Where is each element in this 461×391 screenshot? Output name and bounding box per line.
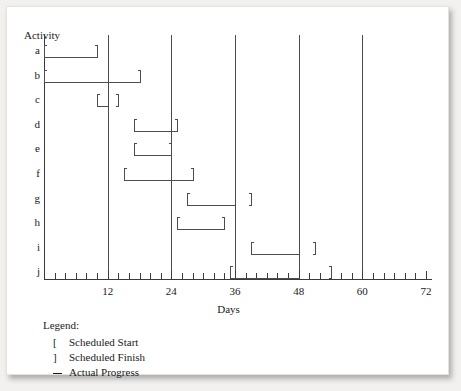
scheduled-finish-bracket-h (224, 217, 225, 229)
scheduled-start-cap-top-b (44, 70, 47, 71)
scheduled-start-cap-top-c (97, 94, 100, 95)
x-tick-68 (405, 273, 406, 279)
scheduled-start-bracket-d (134, 119, 135, 131)
scheduled-start-bracket-c (97, 94, 98, 106)
actual-progress-line-d (134, 131, 176, 132)
y-axis-title: Activity (24, 29, 60, 41)
gridline-day-36 (235, 35, 236, 279)
scheduled-start-cap-top-h (177, 217, 180, 218)
scheduled-finish-cap-bottom-g (249, 205, 252, 206)
x-tick-14 (118, 273, 119, 279)
x-tick-18 (140, 273, 141, 279)
scheduled-finish-cap-top-b (138, 70, 141, 71)
x-tick-28 (193, 273, 194, 279)
scheduled-finish-cap-top-i (313, 242, 316, 243)
activity-row-label-g: g (26, 192, 40, 204)
activity-row-label-b: b (26, 69, 40, 81)
scanned-page-card: Activity Days 122436486072abcdefghij Leg… (6, 6, 449, 375)
x-tick-label-12: 12 (93, 285, 123, 297)
scheduled-start-cap-top-f (124, 168, 127, 169)
legend-symbol-1-icon: ] (53, 351, 69, 363)
scheduled-start-bracket-j (230, 266, 231, 278)
x-tick-8 (86, 273, 87, 279)
actual-progress-line-f (124, 180, 193, 181)
x-tick-2 (55, 273, 56, 279)
scheduled-finish-cap-top-h (222, 217, 225, 218)
activity-row-label-h: h (26, 216, 40, 228)
x-tick-30 (203, 273, 204, 279)
scheduled-finish-cap-bottom-c (116, 106, 119, 107)
x-tick-70 (415, 273, 416, 279)
gridline-day-24 (171, 35, 172, 279)
scheduled-finish-bracket-g (251, 193, 252, 205)
x-tick-50 (309, 273, 310, 279)
scheduled-start-cap-top-i (251, 242, 254, 243)
x-tick-22 (161, 273, 162, 279)
x-tick-4 (65, 273, 66, 279)
scheduled-start-cap-top-e (134, 143, 137, 144)
gridline-day-12 (108, 35, 109, 279)
scheduled-finish-cap-top-g (249, 193, 252, 194)
legend-label-1: Scheduled Finish (69, 351, 145, 363)
legend-entry-2: Actual Progress (53, 366, 323, 379)
x-tick-52 (320, 273, 321, 279)
x-tick-66 (394, 273, 395, 279)
x-tick-24 (171, 271, 172, 279)
scheduled-start-cap-top-j (230, 266, 233, 267)
scheduled-finish-bracket-c (118, 94, 119, 106)
x-tick-72 (426, 271, 427, 279)
x-tick-label-36: 36 (220, 285, 250, 297)
activity-row-label-d: d (26, 118, 40, 130)
scheduled-start-bracket-i (251, 242, 252, 254)
x-tick-48 (299, 271, 300, 279)
scheduled-finish-cap-top-f (191, 168, 194, 169)
scheduled-finish-cap-top-d (175, 119, 178, 120)
x-tick-6 (76, 273, 77, 279)
scheduled-finish-cap-top-a (95, 45, 98, 46)
scheduled-start-bracket-b (44, 70, 45, 82)
actual-progress-line-b (44, 82, 140, 83)
scheduled-finish-cap-bottom-i (313, 254, 316, 255)
scheduled-start-bracket-e (134, 143, 135, 155)
legend-symbol-0-icon: [ (53, 336, 69, 348)
activity-row-label-f: f (26, 167, 40, 179)
x-tick-58 (352, 273, 353, 279)
legend-label-2: Actual Progress (69, 366, 139, 378)
x-tick-64 (384, 273, 385, 279)
scheduled-finish-bracket-b (140, 70, 141, 82)
x-tick-56 (341, 273, 342, 279)
actual-progress-line-i (251, 254, 299, 255)
actual-progress-line-j (230, 278, 299, 279)
x-tick-62 (373, 273, 374, 279)
activity-row-label-e: e (26, 142, 40, 154)
x-tick-12 (108, 271, 109, 279)
scheduled-finish-cap-top-e (169, 143, 172, 144)
x-tick-label-60: 60 (347, 285, 377, 297)
scheduled-start-bracket-f (124, 168, 125, 180)
gridline-day-60 (362, 35, 363, 279)
x-tick-label-24: 24 (156, 285, 186, 297)
activity-row-label-c: c (26, 93, 40, 105)
actual-progress-line-c (97, 106, 108, 107)
x-tick-label-72: 72 (411, 285, 441, 297)
scheduled-finish-bracket-j (331, 266, 332, 278)
x-tick-0 (44, 273, 45, 279)
activity-row-label-j: j (26, 265, 40, 277)
scheduled-start-cap-top-d (134, 119, 137, 120)
scheduled-finish-bracket-e (171, 143, 172, 155)
page-backdrop: Activity Days 122436486072abcdefghij Leg… (0, 0, 461, 391)
x-tick-34 (224, 273, 225, 279)
legend-entry-1: ]Scheduled Finish (53, 351, 323, 364)
scheduled-finish-cap-top-c (116, 94, 119, 95)
scheduled-finish-cap-bottom-j (329, 278, 332, 279)
x-axis-title: Days (7, 303, 450, 315)
actual-progress-line-a (44, 57, 97, 58)
x-tick-label-48: 48 (284, 285, 314, 297)
actual-progress-line-g (187, 205, 235, 206)
scheduled-finish-bracket-i (315, 242, 316, 254)
legend-entry-0: [Scheduled Start (53, 336, 323, 349)
legend-entries: [Scheduled Start]Scheduled FinishActual … (43, 336, 323, 379)
actual-progress-line-e (134, 155, 171, 156)
scheduled-finish-cap-top-j (329, 266, 332, 267)
x-tick-32 (214, 273, 215, 279)
